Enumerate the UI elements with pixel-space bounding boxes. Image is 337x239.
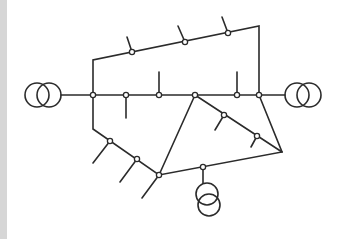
feeder-stub — [120, 159, 137, 182]
bus-node — [256, 92, 261, 97]
bus-node — [156, 92, 161, 97]
bus-node — [254, 133, 259, 138]
bus-line — [159, 95, 195, 175]
network-diagram — [0, 0, 337, 239]
bus-node — [192, 92, 197, 97]
bus-line — [93, 26, 259, 95]
transformer-bottom-icon — [196, 183, 220, 216]
bus-line — [195, 95, 282, 152]
bus-node — [129, 49, 134, 54]
bus-lines — [61, 26, 285, 183]
transformer-symbols — [25, 83, 321, 216]
single-line-diagram — [0, 0, 337, 239]
bus-node — [90, 92, 95, 97]
transformer-right-icon — [285, 83, 321, 107]
transformer-left-icon — [25, 83, 61, 107]
bus-node — [123, 92, 128, 97]
feeder-stub — [142, 175, 159, 198]
bus-node — [234, 92, 239, 97]
feeder-stub — [93, 141, 110, 163]
feeder-stubs — [93, 17, 257, 198]
bus-node — [156, 172, 161, 177]
bus-line — [93, 95, 282, 175]
bus-node — [200, 164, 205, 169]
bus-node — [225, 30, 230, 35]
bus-node — [221, 112, 226, 117]
bus-nodes — [90, 30, 261, 177]
bus-node — [182, 39, 187, 44]
bus-node — [134, 156, 139, 161]
bus-node — [107, 138, 112, 143]
